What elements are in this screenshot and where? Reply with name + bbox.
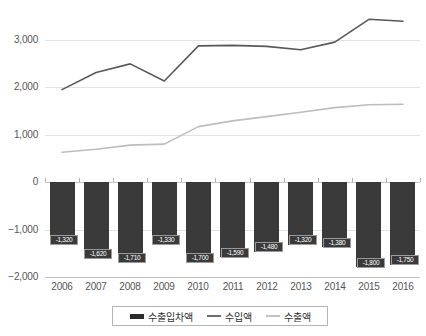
legend-item[interactable]: 수출입차액 — [130, 309, 193, 324]
legend-label: 수출입차액 — [148, 309, 193, 324]
legend-item[interactable]: 수입액 — [207, 309, 252, 324]
legend-line-swatch-icon — [266, 315, 280, 317]
chart-container: 3,0002,0001,0000−1,000−2,000-1,320-1,620… — [0, 0, 426, 336]
x-axis-year-label: 2016 — [383, 281, 423, 292]
legend-line-swatch-icon — [207, 315, 221, 317]
legend-label: 수출액 — [284, 309, 311, 324]
legend-label: 수입액 — [225, 309, 252, 324]
legend-item[interactable]: 수출액 — [266, 309, 311, 324]
x-axis-year-label: 2010 — [178, 281, 218, 292]
line-series — [62, 104, 403, 152]
line-series — [62, 19, 403, 89]
legend-bar-swatch-icon — [130, 314, 144, 319]
chart-legend: 수출입차액수입액수출액 — [112, 306, 328, 326]
